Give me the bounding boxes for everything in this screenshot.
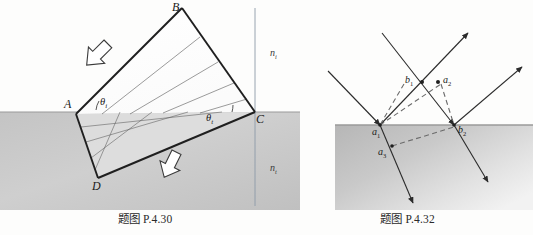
point-label-b1: b1 (405, 74, 413, 87)
vertex-label-B: B (172, 0, 179, 15)
wavefront-a2-b2 (441, 84, 454, 125)
incident-beam-arrow (79, 36, 116, 73)
figure-p4-30: B A C D θi θt ni nt (0, 0, 300, 235)
vertex-label-D: D (92, 179, 101, 194)
figure-p4-32: b1 a2 a1 b2 a3 (300, 0, 533, 235)
point-a3 (390, 144, 394, 148)
vertex-label-A: A (64, 97, 71, 112)
point-label-b2: b2 (458, 124, 466, 137)
vertex-label-C: C (256, 112, 264, 127)
index-label-n1: ni (270, 47, 277, 60)
point-a2 (436, 80, 440, 84)
angle-label-theta-t: θt (206, 112, 213, 126)
incident-ray-1 (328, 71, 380, 125)
point-label-a3: a3 (378, 146, 386, 159)
point-b1 (420, 80, 424, 84)
caption-p4-32: 题图 P.4.32 (300, 210, 515, 226)
lower-medium-region (335, 125, 533, 210)
angle-label-theta-i: θi (100, 96, 107, 110)
figure-page: B A C D θi θt ni nt (0, 0, 533, 235)
point-label-a1: a1 (372, 126, 380, 139)
point-label-a2: a2 (443, 74, 451, 87)
reflected-ray-2 (454, 67, 522, 125)
wavefront-a1-a2 (380, 84, 441, 125)
caption-p4-30: 题图 P.4.30 (0, 210, 290, 226)
index-label-n2: nt (270, 162, 277, 175)
point-b2 (452, 123, 456, 127)
wavefront-b1-a1 (380, 84, 404, 125)
